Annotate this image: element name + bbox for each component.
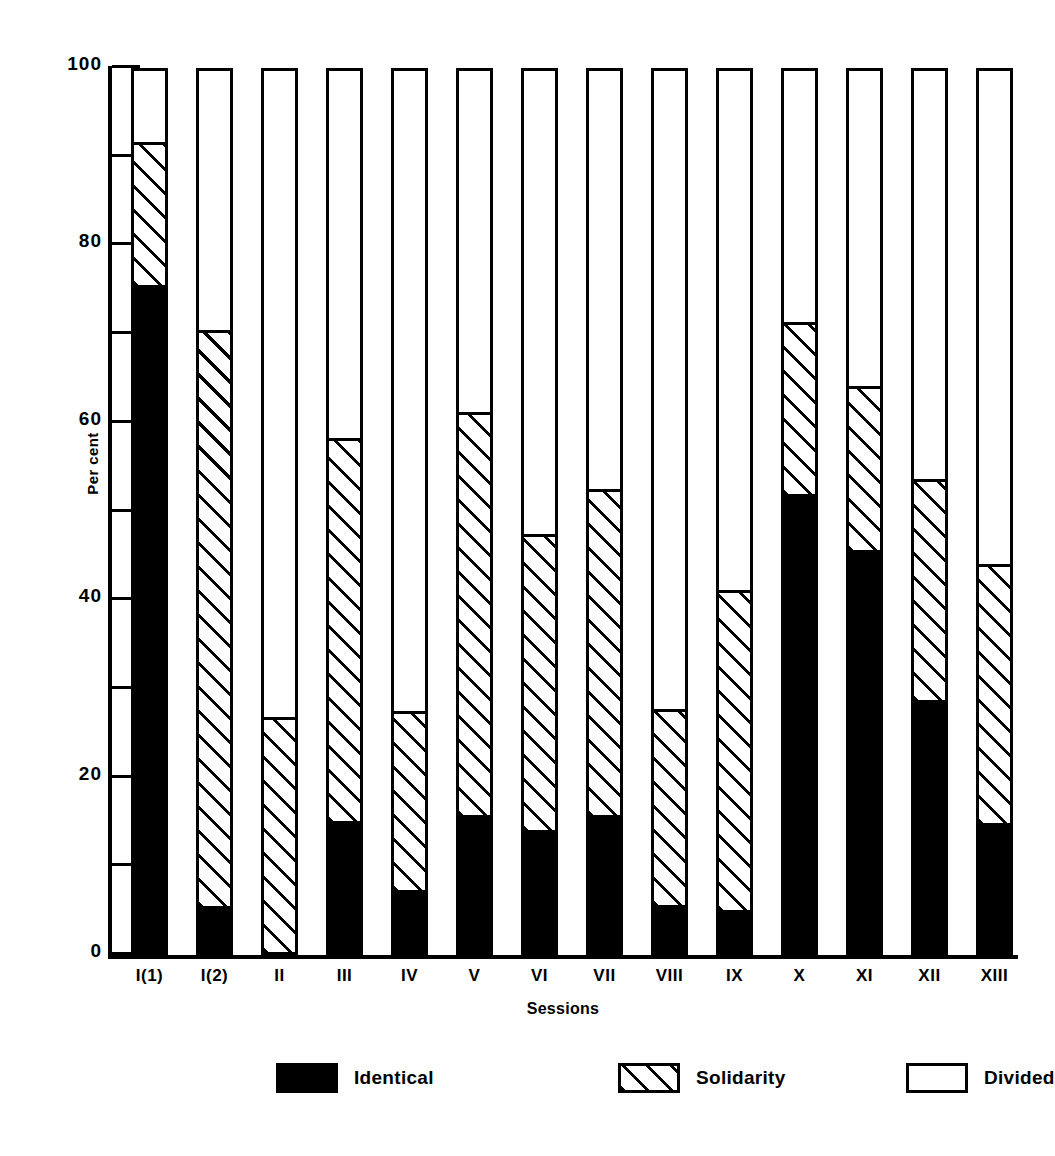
x-tick-label-XIII: XIII (955, 966, 1035, 986)
bar-I(1) (131, 68, 168, 955)
segment-identical (716, 910, 753, 955)
bar-VIII (651, 68, 688, 955)
segment-identical (781, 494, 818, 955)
legend-swatch-divided (906, 1063, 968, 1093)
segment-identical (391, 890, 428, 955)
legend-label-solidarity: Solidarity (696, 1067, 786, 1089)
segment-solidarity (521, 534, 558, 829)
segment-solidarity (651, 709, 688, 905)
segment-identical (846, 550, 883, 955)
segment-identical (911, 700, 948, 955)
bar-VI (521, 68, 558, 955)
segment-solidarity (586, 489, 623, 815)
y-tick-label: 0 (90, 940, 102, 962)
legend-item-divided[interactable]: Divided (906, 1063, 1055, 1093)
segment-solidarity (456, 412, 493, 815)
bar-VII (586, 68, 623, 955)
segment-solidarity (781, 322, 818, 494)
y-tick-label: 40 (79, 585, 102, 607)
segment-solidarity (131, 142, 168, 285)
y-tick-label: 80 (79, 230, 102, 252)
bar-I(2) (196, 68, 233, 955)
segment-solidarity (261, 717, 298, 952)
legend-swatch-solidarity (618, 1063, 680, 1093)
segment-identical (521, 830, 558, 955)
segment-solidarity (976, 564, 1013, 823)
segment-solidarity (716, 590, 753, 910)
segment-identical (131, 285, 168, 955)
segment-identical (196, 906, 233, 955)
plot-area: 100806040200 (108, 68, 1018, 955)
bar-XIII (976, 68, 1013, 955)
legend-label-divided: Divided (984, 1067, 1055, 1089)
bar-IV (391, 68, 428, 955)
bar-XI (846, 68, 883, 955)
bar-X (781, 68, 818, 955)
bar-III (326, 68, 363, 955)
segment-identical (651, 905, 688, 955)
x-axis-label: Sessions (108, 1000, 1018, 1018)
bar-V (456, 68, 493, 955)
legend-label-identical: Identical (354, 1067, 434, 1089)
legend-item-identical[interactable]: Identical (276, 1063, 434, 1093)
segment-solidarity (326, 438, 363, 820)
chart-legend: IdenticalSolidarityDivided (108, 1063, 1018, 1111)
bar-IX (716, 68, 753, 955)
x-axis-tick-labels: I(1)I(2)IIIIIIVVVIVIIVIIIIXXXIXIIXIII (108, 966, 1018, 996)
segment-identical (326, 821, 363, 955)
segment-solidarity (391, 711, 428, 890)
segment-identical (586, 815, 623, 955)
legend-item-solidarity[interactable]: Solidarity (618, 1063, 786, 1093)
y-tick-label: 60 (79, 408, 102, 430)
segment-solidarity (911, 479, 948, 700)
y-tick-label: 20 (79, 763, 102, 785)
bar-XII (911, 68, 948, 955)
segment-identical (456, 815, 493, 955)
bar-II (261, 68, 298, 955)
segment-solidarity (196, 330, 233, 906)
segment-solidarity (846, 386, 883, 550)
legend-swatch-identical (276, 1063, 338, 1093)
bar-group (108, 68, 1018, 955)
x-axis-spine (108, 955, 1018, 959)
y-tick-label: 100 (67, 53, 102, 75)
segment-identical (976, 823, 1013, 955)
